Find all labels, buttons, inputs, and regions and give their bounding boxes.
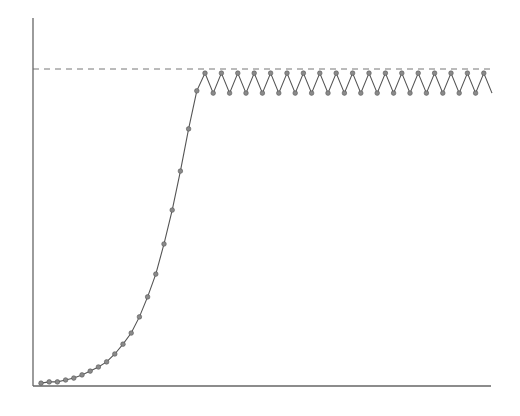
data-point-marker [96,365,101,370]
data-point-marker [55,380,60,385]
data-point-marker [63,378,68,383]
data-point-marker [285,71,290,76]
data-point-marker [203,71,208,76]
data-point-marker [424,91,429,96]
data-point-marker [195,89,200,94]
data-point-marker [441,91,446,96]
data-point-marker [47,380,52,385]
data-point-marker [80,373,85,378]
data-point-marker [400,71,405,76]
data-point-marker [473,91,478,96]
data-point-marker [129,331,134,336]
data-point-marker [104,360,109,365]
data-point-marker [88,369,93,374]
data-point-marker [244,91,249,96]
data-point-marker [432,71,437,76]
data-point-marker [211,91,216,96]
data-point-marker [39,381,44,386]
data-point-marker [227,91,232,96]
data-point-marker [334,71,339,76]
data-point-marker [375,91,380,96]
data-point-marker [391,91,396,96]
data-point-marker [178,169,183,174]
data-point-marker [268,71,273,76]
data-point-marker [367,71,372,76]
data-point-marker [154,272,159,277]
data-point-marker [301,71,306,76]
data-point-marker [137,315,142,320]
data-point-marker [416,71,421,76]
data-point-marker [170,208,175,213]
data-point-marker [449,71,454,76]
data-point-marker [482,71,487,76]
data-point-marker [186,127,191,132]
data-point-marker [236,71,241,76]
data-point-marker [113,352,118,357]
data-series [39,71,492,386]
data-point-marker [293,91,298,96]
data-point-marker [457,91,462,96]
data-point-marker [252,71,257,76]
data-point-marker [309,91,314,96]
data-point-marker [260,91,265,96]
data-point-marker [408,91,413,96]
data-point-marker [326,91,331,96]
axes [33,18,491,386]
data-point-marker [277,91,282,96]
data-point-marker [359,91,364,96]
data-point-marker [465,71,470,76]
line-chart [0,0,520,416]
data-point-marker [219,71,224,76]
data-point-marker [145,295,150,300]
data-point-marker [162,242,167,247]
data-point-marker [121,342,126,347]
data-point-marker [342,91,347,96]
data-point-marker [318,71,323,76]
data-point-marker [350,71,355,76]
series-line [41,73,492,383]
data-point-marker [383,71,388,76]
data-point-marker [72,376,77,381]
